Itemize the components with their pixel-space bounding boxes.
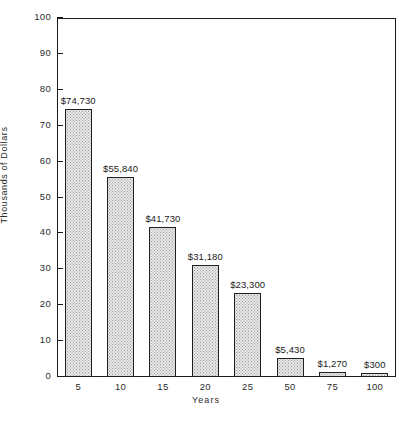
- bar-value-label-5: $74,730: [48, 95, 108, 106]
- bar-50: [277, 358, 304, 377]
- bar-5: [65, 109, 92, 377]
- y-tick-label: 10: [19, 334, 51, 345]
- x-tick-label-20: 20: [185, 381, 225, 392]
- y-tick-label: 80: [19, 83, 51, 94]
- x-tick-label-15: 15: [143, 381, 183, 392]
- y-tick-label: 50: [19, 191, 51, 202]
- y-tick-label: 30: [19, 262, 51, 273]
- y-tick-label: 90: [19, 47, 51, 58]
- y-tick-mark: [57, 161, 63, 162]
- y-tick-label: 40: [19, 226, 51, 237]
- y-tick-mark: [57, 232, 63, 233]
- bar-value-label-25: $23,300: [218, 279, 278, 290]
- y-tick-mark: [57, 89, 63, 90]
- x-tick-label-25: 25: [228, 381, 268, 392]
- y-tick-mark: [57, 197, 63, 198]
- y-tick-label: 0: [19, 370, 51, 381]
- bar-value-label-20: $31,180: [175, 251, 235, 262]
- bar-value-label-15: $41,730: [133, 213, 193, 224]
- y-tick-label: 100: [19, 11, 51, 22]
- x-tick-label-5: 5: [58, 381, 98, 392]
- y-tick-label: 60: [19, 155, 51, 166]
- y-tick-label: 20: [19, 298, 51, 309]
- y-tick-mark: [57, 53, 63, 54]
- bar-10: [107, 177, 134, 377]
- bar-20: [192, 265, 219, 377]
- bar-100: [361, 373, 388, 377]
- y-tick-mark: [57, 125, 63, 126]
- y-tick-mark: [57, 17, 63, 18]
- y-axis-title: Thousands of Dollars: [0, 0, 9, 355]
- x-tick-label-10: 10: [101, 381, 141, 392]
- x-tick-label-50: 50: [270, 381, 310, 392]
- bar-75: [319, 372, 346, 377]
- y-tick-mark: [57, 340, 63, 341]
- chart-page: Thousands of Dollars 0102030405060708090…: [0, 0, 412, 426]
- bar-value-label-100: $300: [345, 359, 405, 370]
- x-tick-label-75: 75: [312, 381, 352, 392]
- y-tick-label: 70: [19, 119, 51, 130]
- y-tick-mark: [57, 268, 63, 269]
- bar-value-label-10: $55,840: [91, 163, 151, 174]
- x-axis-title: Years: [0, 395, 412, 405]
- x-tick-label-100: 100: [355, 381, 395, 392]
- bar-25: [234, 293, 261, 377]
- bar-value-label-50: $5,430: [260, 344, 320, 355]
- y-tick-mark: [57, 304, 63, 305]
- bar-15: [149, 227, 176, 377]
- y-tick-mark: [57, 376, 63, 377]
